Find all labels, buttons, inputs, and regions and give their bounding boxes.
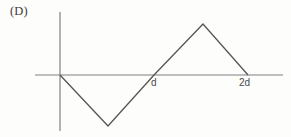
x-tick-label-d: d xyxy=(151,77,157,88)
x-tick-label-2d: 2d xyxy=(239,77,250,88)
panel-label: (D) xyxy=(10,4,28,19)
figure-panel: (D) d 2d xyxy=(0,0,291,137)
waveform-figure xyxy=(0,0,291,137)
